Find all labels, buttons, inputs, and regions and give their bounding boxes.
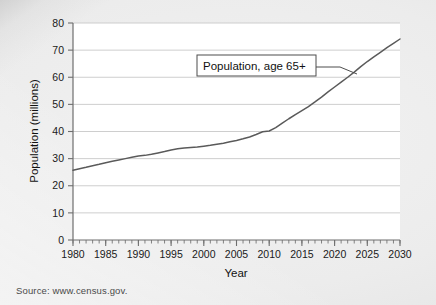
y-tick-label: 30 — [52, 152, 64, 164]
x-tick-label: 2025 — [356, 248, 380, 260]
y-tick-label: 70 — [52, 44, 64, 56]
y-tick-label: 20 — [52, 179, 64, 191]
y-tick-label: 50 — [52, 98, 64, 110]
x-axis-title: Year — [224, 267, 247, 279]
callout-label: Population, age 65+ — [203, 60, 306, 72]
y-tick-label: 80 — [52, 17, 64, 29]
y-axis-ticks — [68, 23, 73, 240]
x-tick-label: 2020 — [323, 248, 347, 260]
x-tick-label: 2010 — [258, 248, 282, 260]
x-axis-major-ticks — [73, 240, 400, 246]
x-tick-label: 1985 — [94, 248, 118, 260]
y-axis-tick-labels: 01020304050607080 — [52, 17, 64, 246]
population-line-chart: 01020304050607080 1980198519901995200020… — [0, 0, 436, 305]
y-tick-label: 10 — [52, 207, 64, 219]
scanned-page: 01020304050607080 1980198519901995200020… — [0, 0, 436, 305]
y-tick-label: 0 — [58, 234, 64, 246]
y-axis-title: Population (millions) — [28, 79, 40, 183]
x-tick-label: 1995 — [159, 248, 183, 260]
x-tick-label: 1990 — [127, 248, 151, 260]
x-tick-label: 1980 — [61, 248, 85, 260]
x-tick-label: 2030 — [388, 248, 412, 260]
x-tick-label: 2015 — [290, 248, 314, 260]
x-tick-label: 2005 — [225, 248, 249, 260]
source-note: Source: www.census.gov. — [16, 285, 128, 296]
y-tick-label: 60 — [52, 71, 64, 83]
y-tick-label: 40 — [52, 125, 64, 137]
x-axis-tick-labels: 1980198519901995200020052010201520202025… — [61, 248, 412, 260]
chart-canvas: 01020304050607080 1980198519901995200020… — [0, 0, 436, 305]
x-tick-label: 2000 — [192, 248, 216, 260]
